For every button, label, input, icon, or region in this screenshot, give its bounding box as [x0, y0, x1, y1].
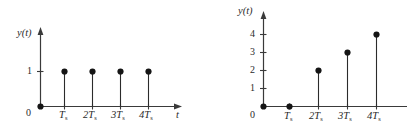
- right-stem-plot-panel: y(t) 1 2 3 4 0 Ts 2Ts 3Ts 4Ts: [204, 0, 407, 130]
- right-sample-dot-ts: [286, 103, 292, 109]
- right-sample-dot-4ts: [373, 31, 379, 37]
- left-x-tick-label-0: 0: [26, 108, 31, 118]
- left-y-axis-label: y(t): [17, 28, 32, 39]
- right-x-tick-label-0: 0: [250, 110, 255, 120]
- right-x-tick-label-4ts: 4Ts: [367, 111, 381, 122]
- left-x-tick-label-ts-sub: s: [65, 114, 68, 121]
- right-x-tick-label-3ts: 3Ts: [338, 111, 352, 122]
- right-y-axis-label: y(t): [238, 6, 253, 17]
- right-x-tick-label-2ts-sub: s: [320, 115, 323, 122]
- left-x-tick-label-3ts: 3Ts: [111, 110, 125, 121]
- left-x-tick-label-ts: Ts: [59, 110, 68, 121]
- left-sample-dot-2ts: [89, 68, 95, 74]
- right-x-tick-label-ts-sub: s: [290, 115, 293, 122]
- left-y-tick-label-1: 1: [27, 66, 32, 76]
- right-x-tick-label-3ts-sub: s: [349, 115, 352, 122]
- left-x-tick-label-4ts: 4Ts: [139, 110, 153, 121]
- right-y-tick-label-4: 4: [250, 29, 255, 39]
- right-y-tick-label-3: 3: [250, 47, 255, 57]
- left-sample-dot-ts: [61, 68, 67, 74]
- left-x-tick-label-4ts-main: 4T: [139, 109, 150, 120]
- right-x-tick-label-4ts-sub: s: [378, 115, 381, 122]
- right-x-tick-label-ts-main: T: [284, 110, 290, 121]
- right-sample-dot-3ts: [344, 49, 350, 55]
- right-y-tick-label-1: 1: [250, 83, 255, 93]
- right-x-tick-label-4ts-main: 4T: [367, 110, 378, 121]
- right-x-tick-label-ts: Ts: [284, 111, 293, 122]
- left-sample-dot-3ts: [117, 68, 123, 74]
- left-sample-dot-4ts: [145, 68, 151, 74]
- right-y-axis-arrowhead: [261, 11, 267, 19]
- right-y-tick-label-2: 2: [250, 65, 255, 75]
- left-x-tick-label-ts-main: T: [59, 109, 65, 120]
- left-x-tick-label-4ts-sub: s: [150, 114, 153, 121]
- left-x-tick-label-3ts-sub: s: [122, 114, 125, 121]
- right-x-tick-label-2ts: 2Ts: [309, 111, 323, 122]
- left-x-tick-label-2ts: 2Ts: [83, 110, 97, 121]
- figure-root: y(t) 1 0 Ts 2Ts 3Ts 4Ts t: [0, 0, 407, 130]
- left-x-tick-label-2ts-main: 2T: [83, 109, 94, 120]
- left-x-tick-label-3ts-main: 3T: [111, 109, 122, 120]
- left-x-axis-label: t: [176, 110, 179, 121]
- right-sample-dot-2ts: [315, 67, 321, 73]
- left-x-tick-label-2ts-sub: s: [94, 114, 97, 121]
- left-sample-dot-0: [37, 103, 43, 109]
- left-y-axis-arrowhead: [38, 27, 44, 35]
- left-stem-plot-panel: y(t) 1 0 Ts 2Ts 3Ts 4Ts t: [0, 0, 204, 130]
- right-x-tick-label-3ts-main: 3T: [338, 110, 349, 121]
- right-sample-dot-0: [260, 103, 266, 109]
- right-x-tick-label-2ts-main: 2T: [309, 110, 320, 121]
